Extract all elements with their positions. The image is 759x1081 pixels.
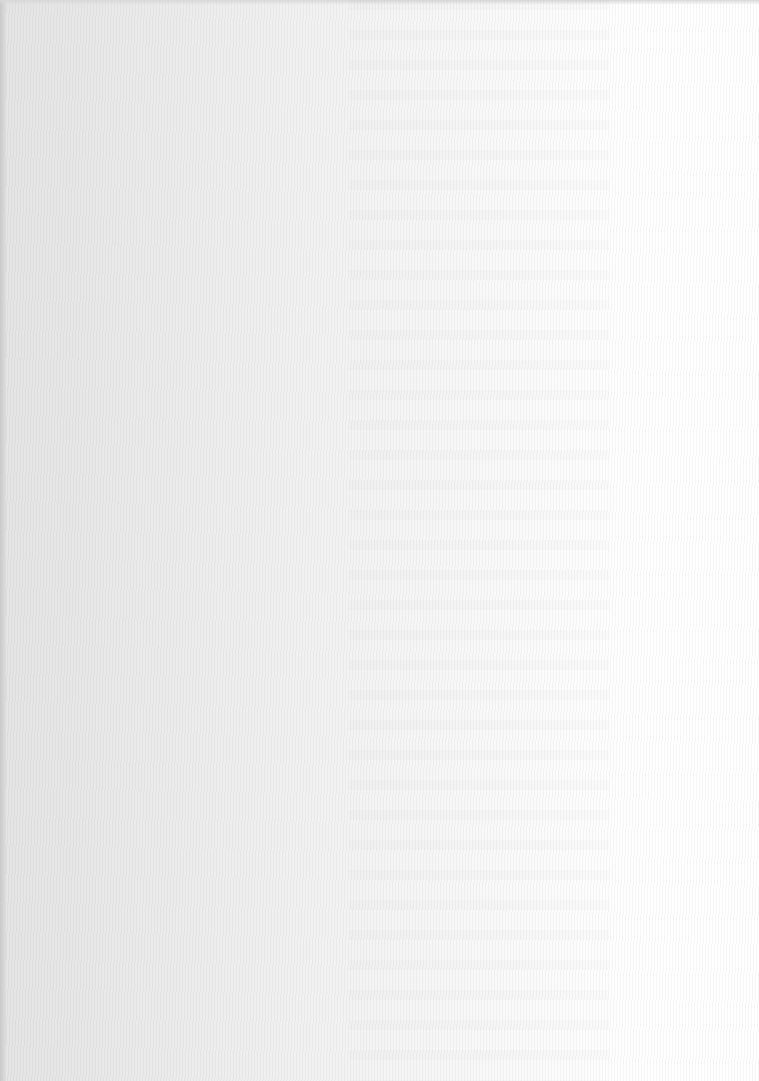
page-left-edge bbox=[0, 0, 6, 1081]
bleed-through-texture bbox=[349, 0, 609, 1081]
blank-document-page bbox=[0, 0, 759, 1081]
